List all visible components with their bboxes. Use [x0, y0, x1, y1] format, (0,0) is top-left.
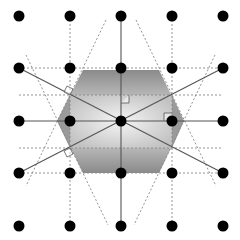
- lattice-dot: [65, 11, 76, 22]
- lattice-dot: [167, 11, 178, 22]
- lattice-dot: [116, 168, 127, 179]
- lattice-dot: [14, 63, 25, 74]
- lattice-dot: [167, 63, 178, 74]
- lattice-diagram: [0, 0, 240, 240]
- lattice-dot: [65, 63, 76, 74]
- lattice-dot: [167, 221, 178, 232]
- lattice-dot: [167, 116, 178, 127]
- lattice-dot: [14, 11, 25, 22]
- lattice-dot: [116, 116, 127, 127]
- lattice-dot: [65, 168, 76, 179]
- lattice-dot: [218, 116, 229, 127]
- lattice-dot: [218, 11, 229, 22]
- diagram-canvas: [0, 0, 240, 240]
- lattice-dot: [14, 116, 25, 127]
- lattice-dot: [218, 221, 229, 232]
- lattice-dot: [116, 221, 127, 232]
- lattice-dot: [65, 116, 76, 127]
- lattice-dot: [167, 168, 178, 179]
- lattice-dot: [116, 63, 127, 74]
- lattice-dot: [218, 63, 229, 74]
- lattice-dot: [14, 221, 25, 232]
- lattice-dot: [14, 168, 25, 179]
- lattice-dot: [116, 11, 127, 22]
- lattice-dot: [65, 221, 76, 232]
- lattice-dot: [218, 168, 229, 179]
